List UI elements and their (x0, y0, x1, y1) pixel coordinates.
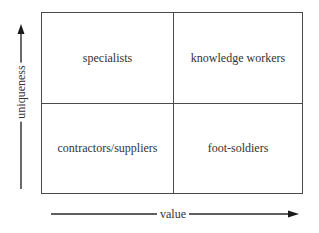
quadrant-label: specialists (83, 51, 132, 66)
x-axis-label: value (157, 207, 189, 222)
quadrant-specialists: specialists (42, 13, 173, 103)
quadrant-label: foot-soldiers (208, 141, 269, 156)
quadrant-label: contractors/suppliers (58, 141, 158, 156)
y-axis-label: uniqueness (14, 62, 29, 121)
quadrant-matrix: specialists knowledge workers contractor… (41, 12, 303, 194)
quadrant-knowledge-workers: knowledge workers (174, 13, 302, 103)
quadrant-foot-soldiers: foot-soldiers (174, 104, 302, 193)
quadrant-label: knowledge workers (191, 51, 285, 66)
quadrant-contractors-suppliers: contractors/suppliers (42, 104, 173, 193)
